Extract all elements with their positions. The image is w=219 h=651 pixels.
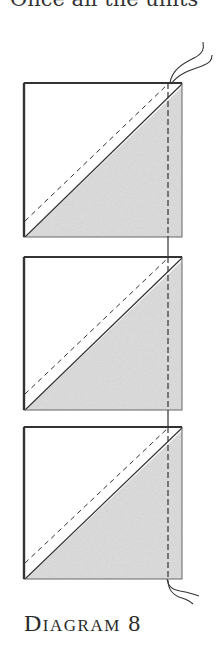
thread-tail-bottom: [168, 580, 193, 604]
thread-tail-top: [170, 42, 203, 83]
chain-piecing-diagram: [0, 0, 219, 651]
thread-tail-bottom: [167, 579, 199, 596]
diagram-caption: Diagram 8: [24, 610, 142, 636]
pieced-unit-2: [24, 257, 182, 410]
pieced-unit-1: [24, 83, 182, 237]
pieced-unit-3: [24, 427, 182, 579]
